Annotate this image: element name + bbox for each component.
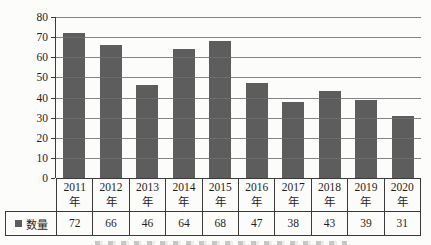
bar-2018 xyxy=(319,91,341,178)
category-row: 2011年2012年2013年2014年2015年2016年2017年2018年… xyxy=(56,178,421,211)
value-cell-2013: 46 xyxy=(129,212,165,235)
category-year: 2015 xyxy=(203,180,238,195)
y-axis-tick xyxy=(51,178,55,179)
gridline xyxy=(56,118,421,119)
category-year-suffix: 年 xyxy=(275,195,310,210)
category-cell-2012: 2012年 xyxy=(92,179,128,211)
y-tick-label: 60 xyxy=(0,50,48,64)
cutoff-caption-fragment xyxy=(95,241,347,245)
category-cell-2018: 2018年 xyxy=(311,179,347,211)
value-cell-2012: 66 xyxy=(92,212,128,235)
data-table-row: 数量 72664664684738433931 xyxy=(5,211,421,236)
value-cell-2011: 72 xyxy=(56,212,92,235)
y-axis-tick xyxy=(51,37,55,38)
category-cell-2011: 2011年 xyxy=(57,179,92,211)
bar-2017 xyxy=(282,102,304,178)
gridline xyxy=(56,158,421,159)
category-cell-2015: 2015年 xyxy=(202,179,238,211)
category-cell-2014: 2014年 xyxy=(165,179,201,211)
category-year-suffix: 年 xyxy=(166,195,201,210)
legend-marker-icon xyxy=(15,220,22,227)
gridline xyxy=(56,138,421,139)
value-cell-2016: 47 xyxy=(238,212,274,235)
value-cell-2014: 64 xyxy=(165,212,201,235)
gridline xyxy=(56,57,421,58)
bar-2013 xyxy=(136,85,158,178)
category-year: 2011 xyxy=(57,180,92,195)
value-cell-2018: 43 xyxy=(311,212,347,235)
y-axis-tick xyxy=(51,158,55,159)
category-cell-2020: 2020年 xyxy=(384,179,420,211)
category-year-suffix: 年 xyxy=(93,195,128,210)
y-tick-label: 70 xyxy=(0,30,48,44)
category-year: 2018 xyxy=(312,180,347,195)
y-axis-labels: 01020304050607080 xyxy=(0,0,48,200)
gridline xyxy=(56,17,421,18)
category-year-suffix: 年 xyxy=(130,195,165,210)
value-cell-2019: 39 xyxy=(347,212,383,235)
y-tick-label: 0 xyxy=(0,171,48,185)
category-year-suffix: 年 xyxy=(57,195,92,210)
category-year-suffix: 年 xyxy=(348,195,383,210)
y-axis-tick xyxy=(51,138,55,139)
y-tick-label: 80 xyxy=(0,10,48,24)
y-axis-tick xyxy=(51,118,55,119)
category-year: 2013 xyxy=(130,180,165,195)
y-axis-tick xyxy=(51,98,55,99)
value-cell-2017: 38 xyxy=(274,212,310,235)
value-cell-2020: 31 xyxy=(384,212,420,235)
bar-chart-figure: 01020304050607080 2011年2012年2013年2014年20… xyxy=(0,0,431,245)
category-year: 2019 xyxy=(348,180,383,195)
legend-cell: 数量 xyxy=(6,212,56,235)
gridline xyxy=(56,37,421,38)
category-year: 2020 xyxy=(385,180,420,195)
legend-label: 数量 xyxy=(26,216,48,232)
y-tick-label: 50 xyxy=(0,70,48,84)
category-year: 2014 xyxy=(166,180,201,195)
category-cell-2013: 2013年 xyxy=(129,179,165,211)
category-year: 2012 xyxy=(93,180,128,195)
y-tick-label: 20 xyxy=(0,131,48,145)
gridline xyxy=(56,98,421,99)
bar-2020 xyxy=(392,116,414,178)
gridline xyxy=(56,77,421,78)
y-axis-tick xyxy=(51,57,55,58)
category-cell-2017: 2017年 xyxy=(274,179,310,211)
bar-2019 xyxy=(355,100,377,178)
value-cell-2015: 68 xyxy=(202,212,238,235)
y-axis-tick xyxy=(51,17,55,18)
y-tick-label: 30 xyxy=(0,111,48,125)
plot-area xyxy=(56,17,421,178)
category-cell-2019: 2019年 xyxy=(347,179,383,211)
category-cell-2016: 2016年 xyxy=(238,179,274,211)
category-year: 2016 xyxy=(239,180,274,195)
y-tick-label: 40 xyxy=(0,91,48,105)
bar-2011 xyxy=(63,33,85,178)
category-year-suffix: 年 xyxy=(385,195,420,210)
category-year: 2017 xyxy=(275,180,310,195)
y-tick-label: 10 xyxy=(0,151,48,165)
category-year-suffix: 年 xyxy=(239,195,274,210)
category-year-suffix: 年 xyxy=(312,195,347,210)
y-axis-tick xyxy=(51,77,55,78)
category-year-suffix: 年 xyxy=(203,195,238,210)
